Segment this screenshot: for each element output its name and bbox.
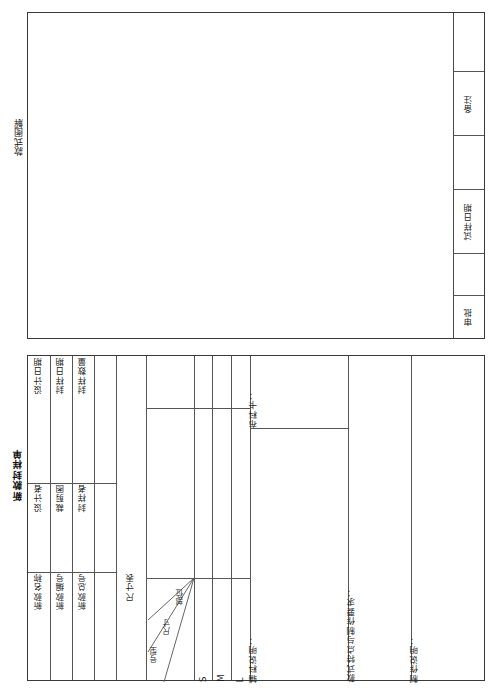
size-label-s: S — [199, 671, 208, 682]
field-cell-new-style-total: 新款总号 — [72, 572, 94, 682]
field-label-designer: 设计者 — [35, 483, 44, 516]
field-cell-sample-qty: 封样数量 — [72, 356, 94, 483]
field-cell-designer: 设计者 — [28, 483, 50, 572]
accessory-note-cell[interactable]: 辅料说明： — [250, 428, 348, 682]
field-cell-new-style-code: 新款编号 — [50, 572, 72, 682]
size-label-l: L — [236, 672, 245, 682]
field-cell-sample-date: 封样日期 — [50, 356, 72, 483]
size-table-header-blank[interactable] — [146, 356, 250, 408]
document-page: 款式图解 备注 试样日期 审批 — [0, 0, 492, 690]
style-features-cell[interactable]: 款式特点与制作要求： — [348, 356, 411, 682]
size-label-m: M — [217, 669, 226, 682]
field-label-sample-maker: 封样者 — [79, 483, 88, 516]
header-values-blank-area[interactable] — [94, 356, 116, 682]
field-label-new-style-code: 新款编号 — [57, 572, 66, 614]
corner-label-sizecode: 号型 — [150, 646, 164, 678]
illustration-drawing-area[interactable] — [28, 13, 453, 338]
accessory-note-label: 辅料说明： — [250, 629, 264, 683]
field-label-cutting-drawing: 裁剪图 — [57, 483, 66, 516]
illustration-section-label-text: 款式图解 — [14, 118, 23, 156]
approval-label: 审批 — [465, 307, 474, 326]
form-frame: 新款名称 新款编号 新款总号 设计者 裁剪图 封样者 设计日期 封样日期 封样数… — [27, 355, 485, 681]
field-label-new-style-name: 新款名称 — [35, 572, 44, 614]
field-cell-cutting-drawing: 裁剪图 — [50, 483, 72, 572]
production-note-label: 制作说明： — [411, 629, 425, 683]
trial-date-label: 试样日期 — [465, 202, 474, 240]
trial-date-label-cell: 试样日期 — [454, 189, 484, 253]
size-table-label-cell: 尺寸表 — [116, 572, 146, 682]
corner-label-part: 部位 — [176, 588, 190, 618]
size-row-m: M — [212, 578, 231, 682]
field-label-sample-date: 封样日期 — [57, 356, 66, 398]
field-label-sample-qty: 封样数量 — [79, 356, 88, 398]
corner-label-measure: 尺寸 — [163, 618, 177, 648]
size-table-label: 尺寸表 — [127, 572, 136, 605]
field-cell-sample-maker: 封样者 — [72, 483, 94, 572]
fabric-card-label: 布料卡： — [250, 384, 264, 428]
size-table-corner-cell: 部位 尺寸 号型 — [146, 578, 194, 682]
illustration-section-label: 款式图解 — [14, 118, 28, 228]
production-note-cell[interactable]: 制作说明： — [411, 356, 486, 682]
remark-label-cell: 备注 — [454, 71, 484, 135]
trial-date-value-cell[interactable] — [454, 135, 484, 189]
size-row-l: L — [231, 578, 250, 682]
illustration-right-column: 备注 试样日期 审批 — [453, 13, 484, 338]
approval-value-cell[interactable] — [454, 253, 484, 295]
fabric-card-cell[interactable]: 布料卡： — [250, 356, 348, 428]
remark-label: 备注 — [465, 94, 474, 113]
style-features-label: 款式特点与制作要求： — [348, 581, 362, 682]
remark-value-cell[interactable] — [454, 13, 484, 71]
approval-label-cell: 审批 — [454, 295, 484, 338]
form-title: 新款封样单 — [13, 448, 27, 522]
size-row-s: S — [194, 578, 212, 682]
field-cell-new-style-name: 新款名称 — [28, 572, 50, 682]
field-label-new-style-total: 新款总号 — [79, 572, 88, 614]
field-cell-design-date: 设计日期 — [28, 356, 50, 483]
size-table-blank-cells[interactable] — [146, 408, 250, 578]
field-label-design-date: 设计日期 — [35, 356, 44, 398]
form-title-text: 新款封样单 — [13, 448, 23, 501]
illustration-frame: 备注 试样日期 审批 — [27, 12, 485, 339]
